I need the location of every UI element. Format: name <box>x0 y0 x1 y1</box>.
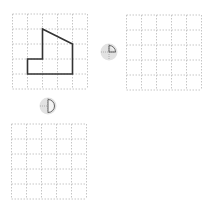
original-grid <box>12 14 88 89</box>
grid-lines <box>12 14 88 89</box>
half-turn-icon <box>39 97 57 115</box>
grid-lines <box>11 124 87 199</box>
grid-lines <box>126 15 202 90</box>
quarter-turn-icon <box>100 43 118 61</box>
rotated-half-grid <box>11 124 87 199</box>
rotated-quarter-grid <box>126 15 202 90</box>
shape-polygon <box>28 29 73 74</box>
